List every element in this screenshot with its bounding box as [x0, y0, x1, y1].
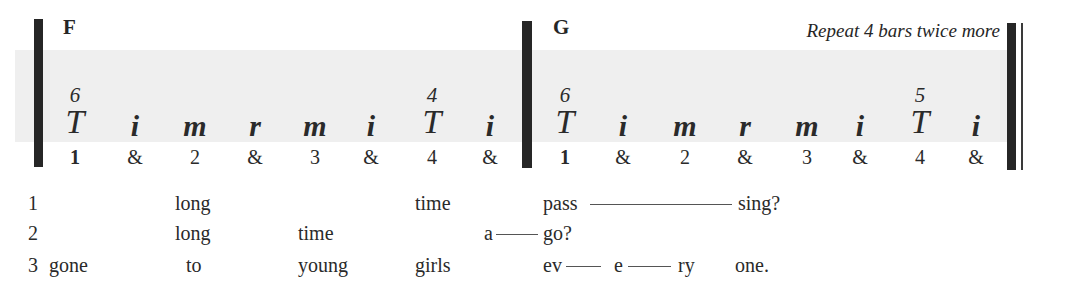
finger-number	[840, 84, 880, 106]
lyric-syllable: time	[298, 222, 334, 244]
repeat-annotation: Repeat 4 bars twice more	[807, 20, 1000, 42]
barline-end-thin	[1021, 23, 1023, 170]
beat-count: &	[725, 146, 765, 168]
lyric-syllable: long	[175, 222, 211, 244]
chord-label-measure-1: F	[63, 16, 76, 38]
beat-count: &	[470, 146, 510, 168]
finger-number	[351, 84, 391, 106]
lyric-syllable: go?	[543, 222, 572, 244]
beat-count: &	[956, 146, 996, 168]
finger-number	[295, 84, 335, 106]
chord-label-measure-2: G	[553, 16, 569, 38]
lyric-syllable: ev	[543, 254, 562, 276]
finger-stroke-i: i	[603, 108, 643, 144]
lyric-syllable: e	[614, 254, 623, 276]
finger-number	[725, 84, 765, 106]
lyric-syllable: gone	[49, 254, 88, 276]
finger-stroke-r: r	[725, 108, 765, 144]
lyric-syllable: pass	[543, 192, 577, 214]
lyric-syllable: one.	[735, 254, 769, 276]
finger-number	[665, 84, 705, 106]
thumb-stroke: T	[412, 104, 452, 140]
beat-count: &	[115, 146, 155, 168]
syllable-extender-line	[566, 266, 601, 267]
finger-number	[787, 84, 827, 106]
lyric-syllable: young	[298, 254, 348, 276]
finger-number	[470, 84, 510, 106]
finger-number	[175, 84, 215, 106]
beat-count: &	[351, 146, 391, 168]
barline-middle	[522, 21, 532, 168]
finger-stroke-i: i	[840, 108, 880, 144]
verse-number: 3	[28, 254, 38, 276]
finger-stroke-m: m	[295, 108, 335, 144]
syllable-extender-line	[628, 266, 671, 267]
lyric-syllable: sing?	[738, 192, 780, 214]
lyric-syllable: time	[415, 192, 451, 214]
beat-count: 1	[545, 146, 585, 168]
thumb-stroke: T	[545, 104, 585, 140]
barline-end-thick	[1007, 23, 1016, 170]
beat-count: &	[840, 146, 880, 168]
syllable-extender-line	[590, 204, 732, 205]
lyric-syllable: ry	[678, 254, 695, 276]
beat-count: &	[603, 146, 643, 168]
finger-stroke-m: m	[175, 108, 215, 144]
beat-count: &	[235, 146, 275, 168]
beat-count: 3	[787, 146, 827, 168]
thumb-stroke: T	[55, 104, 95, 140]
finger-stroke-r: r	[235, 108, 275, 144]
verse-number: 2	[28, 222, 38, 244]
beat-count: 2	[175, 146, 215, 168]
lyric-syllable: a	[484, 222, 493, 244]
lyric-syllable: long	[175, 192, 211, 214]
beat-count: 4	[900, 146, 940, 168]
beat-count: 3	[295, 146, 335, 168]
beat-count: 4	[412, 146, 452, 168]
verse-number: 1	[28, 192, 38, 214]
beat-count: 2	[665, 146, 705, 168]
finger-stroke-i: i	[956, 108, 996, 144]
finger-number	[235, 84, 275, 106]
lyric-syllable: to	[186, 254, 202, 276]
finger-stroke-i: i	[351, 108, 391, 144]
thumb-stroke: T	[900, 104, 940, 140]
syllable-extender-line	[496, 234, 538, 235]
lyric-syllable: girls	[415, 254, 451, 276]
finger-stroke-m: m	[787, 108, 827, 144]
finger-stroke-i: i	[470, 108, 510, 144]
barline-start	[34, 19, 43, 167]
beat-count: 1	[55, 146, 95, 168]
finger-stroke-i: i	[115, 108, 155, 144]
finger-stroke-m: m	[665, 108, 705, 144]
finger-number	[603, 84, 643, 106]
finger-number	[956, 84, 996, 106]
finger-number	[115, 84, 155, 106]
